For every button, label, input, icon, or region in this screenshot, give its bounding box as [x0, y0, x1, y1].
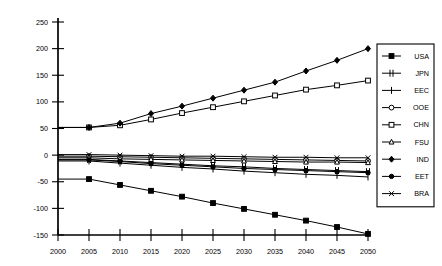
- data-point-open-square: [211, 105, 216, 110]
- data-point-filled-square: [211, 201, 216, 206]
- y-tick-label: 100: [36, 97, 48, 106]
- data-point-open-square: [242, 99, 247, 104]
- y-tick-label: 0: [44, 151, 48, 160]
- legend-label: EET: [415, 172, 430, 181]
- data-point-filled-square: [118, 183, 123, 188]
- data-point-filled-square: [242, 207, 247, 212]
- data-point-open-square: [304, 87, 309, 92]
- data-point-filled-circle: [211, 165, 215, 169]
- y-tick-label: 250: [36, 18, 48, 27]
- x-tick-label: 2030: [236, 247, 252, 256]
- legend-label: IND: [417, 155, 429, 164]
- data-point-filled-circle: [180, 163, 184, 167]
- chart-container: -150-100-50050100150200250 2000200520102…: [0, 0, 442, 266]
- data-point-filled-circle: [118, 159, 122, 163]
- y-tick-label: -50: [38, 177, 48, 186]
- data-point-filled-circle: [87, 158, 91, 162]
- data-point-filled-square: [366, 232, 371, 237]
- data-point-filled-square: [149, 188, 154, 193]
- x-tick-label: 2025: [205, 247, 221, 256]
- data-point-filled-circle: [366, 170, 370, 174]
- x-tick-label: 2000: [50, 247, 66, 256]
- data-point-filled-square: [87, 177, 92, 182]
- data-point-open-square: [335, 83, 340, 88]
- x-tick-label: 2040: [298, 247, 314, 256]
- data-point-open-square: [366, 78, 371, 83]
- data-point-open-square: [389, 122, 394, 127]
- y-tick-label: 150: [36, 71, 48, 80]
- line-chart: -150-100-50050100150200250 2000200520102…: [0, 0, 442, 266]
- data-point-filled-square: [389, 54, 394, 59]
- data-point-filled-square: [335, 225, 340, 230]
- chart-background: [0, 0, 442, 266]
- data-point-filled-square: [273, 212, 278, 217]
- legend-label: BRA: [414, 189, 429, 198]
- data-point-open-square: [180, 111, 185, 116]
- x-tick-label: 2035: [267, 247, 283, 256]
- data-point-open-circle: [389, 105, 394, 110]
- legend-label: USA: [414, 52, 429, 61]
- legend-label: OOE: [413, 103, 429, 112]
- x-tick-label: 2015: [143, 247, 159, 256]
- data-point-filled-circle: [304, 168, 308, 172]
- y-tick-label: -150: [34, 231, 48, 240]
- legend-label: FSU: [415, 138, 429, 147]
- data-point-filled-circle: [242, 166, 246, 170]
- x-tick-label: 2005: [81, 247, 97, 256]
- y-tick-label: 200: [36, 44, 48, 53]
- y-tick-label: -100: [34, 204, 48, 213]
- data-point-filled-circle: [273, 167, 277, 171]
- y-tick-label: 50: [40, 124, 48, 133]
- legend-label: CHN: [413, 120, 429, 129]
- x-tick-label: 2020: [174, 247, 190, 256]
- x-tick-label: 2045: [329, 247, 345, 256]
- data-point-filled-circle: [389, 174, 393, 178]
- data-point-filled-circle: [149, 161, 153, 165]
- legend-label: JPN: [415, 69, 429, 78]
- legend-label: EEC: [414, 86, 429, 95]
- data-point-open-square: [149, 117, 154, 122]
- data-point-filled-circle: [335, 169, 339, 173]
- data-point-filled-square: [180, 194, 185, 199]
- data-point-filled-square: [304, 218, 309, 223]
- x-tick-label: 2010: [112, 247, 128, 256]
- chart-legend: USAJPNEECOOECHNFSUINDEETBRA: [377, 44, 434, 207]
- data-point-open-square: [273, 93, 278, 98]
- x-tick-label: 2050: [360, 247, 376, 256]
